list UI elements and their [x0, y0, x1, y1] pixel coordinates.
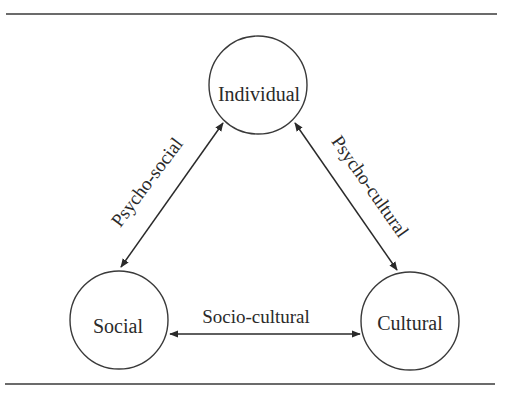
social-label: Social [93, 315, 143, 337]
node-individual: Individual [209, 36, 307, 134]
socio-cultural-label: Socio-cultural [202, 306, 310, 327]
node-social: Social [70, 271, 168, 369]
edge-socio-cultural: Socio-cultural [170, 306, 360, 334]
cultural-label: Cultural [377, 312, 443, 334]
psycho-social-label: Psycho-social [107, 134, 187, 231]
node-cultural: Cultural [361, 272, 459, 370]
edge-psycho-cultural: Psycho-cultural [295, 123, 413, 270]
psycho-cultural-label: Psycho-cultural [328, 131, 414, 241]
edge-psycho-social: Psycho-social [107, 123, 223, 267]
individual-label: Individual [218, 83, 301, 105]
relationship-diagram: Psycho-social Psycho-cultural Socio-cult… [0, 0, 532, 397]
